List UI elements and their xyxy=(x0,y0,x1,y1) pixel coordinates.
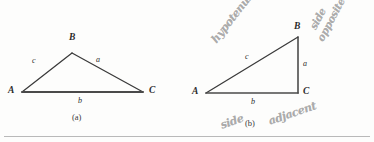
triangle-b-vertex-label-C: C xyxy=(303,87,310,97)
triangle-b-vertex-label-A: A xyxy=(192,87,199,97)
bottom-divider xyxy=(4,136,370,137)
triangle-b-side-label-b: b xyxy=(251,98,255,106)
panel-a-caption: (a) xyxy=(72,113,81,122)
triangle-a-side-c xyxy=(22,53,72,92)
triangle-a-vertex-label-A: A xyxy=(8,86,15,96)
triangle-b xyxy=(206,37,298,93)
triangle-a-side-label-b: b xyxy=(78,97,82,105)
triangle-a-vertex-label-C: C xyxy=(149,86,156,96)
triangle-b-side-label-c: c xyxy=(245,53,249,61)
triangle-b-side-c xyxy=(206,37,298,93)
triangle-a-side-label-a: a xyxy=(96,56,100,64)
triangle-b-side-label-a: a xyxy=(303,60,307,68)
triangle-b-vertex-label-B: B xyxy=(294,22,301,32)
figure-container: A B C c a b (a) A B C c a b (b) hypotenu… xyxy=(0,0,374,142)
triangle-a xyxy=(22,53,143,92)
triangle-a-side-a xyxy=(72,53,143,92)
triangle-a-vertex-label-B: B xyxy=(69,33,76,43)
triangle-a-side-label-c: c xyxy=(32,57,36,65)
panel-b-caption: (b) xyxy=(245,119,255,128)
